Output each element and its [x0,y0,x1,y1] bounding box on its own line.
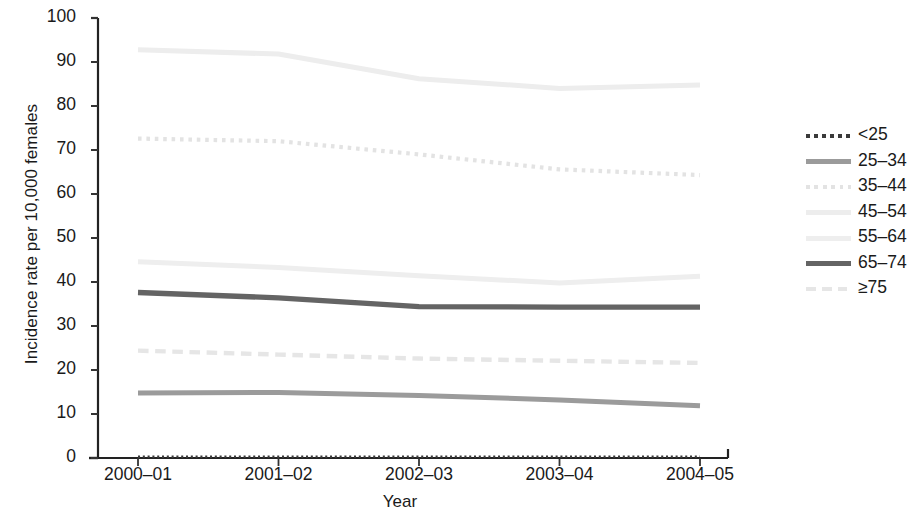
series-line [138,351,700,363]
series-line [138,262,700,283]
legend-swatch [806,134,851,138]
legend-label: <25 [858,124,888,145]
legend-label: 45–54 [858,201,907,222]
legend-item[interactable]: 25–34 [806,151,916,177]
legend-item[interactable]: 45–54 [806,202,916,228]
legend-item[interactable]: 65–74 [806,253,916,279]
legend: <2525–3435–4445–5455–6465–74≥75 [806,125,916,304]
legend-swatch [806,185,851,189]
chart-figure: Incidence rate per 10,000 females Year 0… [0,0,916,529]
plot-area [0,0,916,529]
legend-swatch [806,261,851,266]
series-line [138,139,700,176]
series-line [138,293,700,308]
legend-label: 35–44 [858,175,907,196]
legend-swatch [806,210,851,215]
legend-swatch [806,159,851,164]
legend-label: 25–34 [858,150,907,171]
legend-swatch [806,236,851,241]
legend-item[interactable]: <25 [806,125,916,151]
legend-item[interactable]: ≥75 [806,278,916,304]
legend-label: 65–74 [858,252,907,273]
legend-item[interactable]: 55–64 [806,227,916,253]
series-line [138,50,700,89]
legend-label: ≥75 [858,277,887,298]
legend-label: 55–64 [858,226,907,247]
legend-item[interactable]: 35–44 [806,176,916,202]
series-line [138,392,700,405]
legend-swatch [806,287,851,291]
